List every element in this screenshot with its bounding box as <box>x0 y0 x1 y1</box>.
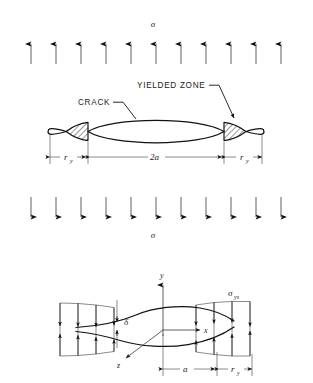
yielded-zone-label: YIELDED ZONE <box>137 81 205 90</box>
yielded-zone-right <box>224 122 264 140</box>
dimension-row-top: r y 2a r y <box>50 151 262 164</box>
sigma-label-bottom: σ <box>151 230 156 240</box>
stress-block-left <box>60 303 114 356</box>
yield-stress-label: σ ys <box>228 288 240 300</box>
dim-two-a: 2a <box>150 152 160 162</box>
dim-a: a <box>183 364 188 374</box>
axis-y: y <box>159 271 164 336</box>
crack-opening-shape <box>88 120 224 143</box>
dim-ry-right: r <box>240 152 244 162</box>
crack-label: CRACK <box>78 98 110 107</box>
sigma-ys-sub: ys <box>233 294 240 300</box>
callout-crack: CRACK <box>78 98 136 119</box>
yielded-zone-left <box>48 122 88 140</box>
axis-z: z <box>116 330 163 370</box>
fracture-mechanics-figure: σ <box>0 0 313 383</box>
dim-ry-bottom-sub: y <box>236 370 240 376</box>
dim-ry-bottom: r <box>231 364 235 374</box>
figure-root: σ <box>0 0 313 383</box>
axis-x: x <box>163 326 208 335</box>
dim-ry-left-sub: y <box>69 158 73 164</box>
callout-yielded-zone: YIELDED ZONE <box>137 81 234 118</box>
dim-ry-right-sub: y <box>245 158 249 164</box>
axis-x-label: x <box>203 326 208 335</box>
load-arrows-up <box>31 44 281 64</box>
axis-y-label: y <box>159 271 164 280</box>
sigma-label-top: σ <box>151 19 156 29</box>
axis-z-label: z <box>116 361 121 370</box>
dim-ry-left: r <box>64 152 68 162</box>
dimension-row-bottom: a r y <box>163 363 252 376</box>
sigma-ys-base: σ <box>228 288 233 298</box>
crack-profile-3d <box>76 307 234 347</box>
load-arrows-down <box>31 197 281 217</box>
